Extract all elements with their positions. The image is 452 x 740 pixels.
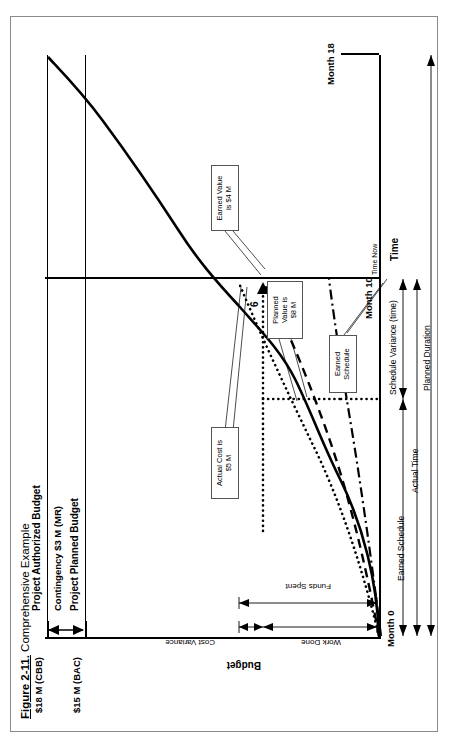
planned-value-callout-line1: Planned <box>271 286 280 334</box>
earned-value-callout-line1: Earned Value <box>215 170 224 226</box>
rotated-figure-canvas: Figure 2-11. Comprehensive Example <box>0 0 452 740</box>
earned-value-leader <box>225 231 261 275</box>
earned-schedule-leader <box>341 283 383 339</box>
earned-schedule-dim-label: Earned Schedule <box>397 516 406 581</box>
earned-schedule-callout-line2: Schedule <box>342 340 351 388</box>
work-done-label: Work Done <box>301 638 341 647</box>
cost-variance-arrow-a <box>239 623 248 631</box>
sv-dim-arrow-b <box>399 279 407 290</box>
planned-budget-label: Project Planned Budget <box>69 498 80 611</box>
planned-value-callout-line3: $8 M <box>289 286 298 334</box>
cost-variance-arrow-b <box>254 623 263 631</box>
work-done-arrow-a <box>263 623 273 631</box>
time-now-label: Time Now <box>371 244 379 275</box>
planned-duration-label: Planned Duration <box>423 325 432 391</box>
pd-dim-arrow-a <box>427 625 435 636</box>
es-dim-arrow-b <box>399 399 407 410</box>
budget-axis-label: Budget <box>227 660 261 671</box>
funds-spent-label: Funds Spent <box>286 582 331 591</box>
month-10-label: Month 10 <box>363 277 374 319</box>
work-done-arrow-b <box>367 623 377 631</box>
earned-schedule-callout: Earned Schedule <box>329 335 357 393</box>
bac-value-label: $15 M (BAC) <box>71 657 82 713</box>
schedule-variance-label: Schedule Variance (time) <box>389 300 398 395</box>
actual-cost-leader <box>225 287 241 431</box>
earned-schedule-curve <box>329 279 381 636</box>
figure-frame: Figure 2-11. Comprehensive Example <box>10 16 438 732</box>
funds-spent-arrow-a <box>239 599 249 607</box>
contingency-arrow-bottom <box>73 625 84 635</box>
curve-layer <box>11 15 439 731</box>
actual-cost-callout: Actual Cost is $5 M <box>211 427 239 499</box>
cbb-value-label: $18 M (CBB) <box>33 657 44 713</box>
sv-dim-arrow-a <box>399 388 407 399</box>
figure-page: Figure 2-11. Comprehensive Example <box>0 0 452 740</box>
time-axis-label: Time <box>389 238 400 261</box>
month-0-label: Month 0 <box>385 611 396 647</box>
authorized-budget-label: Project Authorized Budget <box>31 485 42 611</box>
earned-value-callout: Earned Value is $4 M <box>211 165 239 231</box>
at-dim-arrow-b <box>413 279 421 290</box>
actual-cost-callout-line1: Actual Cost is <box>215 432 224 494</box>
contingency-arrow-top <box>48 625 59 635</box>
actual-cost-callout-line2: $5 M <box>224 432 233 494</box>
earned-schedule-callout-line1: Earned <box>333 340 342 388</box>
pd-dim-arrow-b <box>427 55 435 66</box>
earned-value-callout-line2: is $4 M <box>224 170 233 226</box>
es-dim-arrow-a <box>399 625 407 636</box>
cost-variance-label: Cost Variance <box>165 638 215 647</box>
month-18-label: Month 18 <box>325 43 336 85</box>
earned-value-leader-2 <box>233 231 265 269</box>
planned-value-callout-line2: Value is <box>280 286 289 334</box>
contingency-label: Contingency $3 M (MR) <box>52 506 63 611</box>
earned-schedule-value-label: 6 <box>249 301 260 307</box>
at-dim-arrow-a <box>413 625 421 636</box>
actual-time-label: Actual Time <box>411 449 420 493</box>
planned-value-callout: Planned Value is $8 M <box>267 281 303 339</box>
